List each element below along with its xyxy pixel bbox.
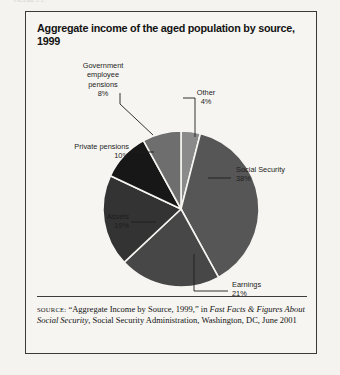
pie-label-social-security: Social Security 38% xyxy=(236,165,322,184)
figure-page: FIGURE 2.3 Aggregate income of the aged … xyxy=(0,0,340,375)
leader-line-government xyxy=(120,93,153,135)
pie-label-other: Other 4% xyxy=(178,88,234,107)
pie-label-private-text: Private pensions xyxy=(74,142,129,151)
pie-value-government: 8% xyxy=(98,89,109,98)
pie-label-government-pensions: Government employee pensions 8% xyxy=(60,61,146,98)
pie-value-assets: 19% xyxy=(114,221,129,230)
pie-label-earnings-text: Earnings xyxy=(232,280,261,289)
pie-label-government-line3: pensions xyxy=(88,80,118,89)
source-keyword: source: xyxy=(37,306,66,313)
pie-label-private-pensions: Private pensions 10% xyxy=(31,142,129,161)
source-note: source: “Aggregate Income by Source, 199… xyxy=(37,304,309,327)
pie-value-private: 10% xyxy=(114,151,129,160)
source-divider xyxy=(37,296,307,297)
pie-label-government-line1: Government xyxy=(83,61,124,70)
pie-label-assets-text: Assets xyxy=(107,212,129,221)
page-top-fragment: FIGURE 2.3 xyxy=(14,0,44,3)
figure-box: Aggregate income of the aged population … xyxy=(25,11,317,354)
pie-chart: Government employee pensions 8% Other 4%… xyxy=(26,42,316,297)
pie-label-government-line2: employee xyxy=(87,70,119,79)
pie-value-social-security: 38% xyxy=(236,174,251,183)
pie-label-social-security-text: Social Security xyxy=(236,165,285,174)
pie-label-other-text: Other xyxy=(197,88,215,97)
source-text-part1: “Aggregate Income by Source, 1999,” in xyxy=(66,304,209,314)
source-text-part2: , Social Security Administration, Washin… xyxy=(88,315,297,325)
pie-label-assets: Assets 19% xyxy=(31,212,129,231)
pie-value-other: 4% xyxy=(201,97,212,106)
